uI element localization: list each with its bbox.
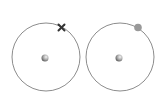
nucleus-right <box>116 55 123 62</box>
electron-dot-icon <box>134 24 142 32</box>
atom-left <box>12 23 80 91</box>
atom-right <box>86 23 154 91</box>
nucleus-left <box>42 55 49 62</box>
atom-diagram <box>0 0 168 100</box>
